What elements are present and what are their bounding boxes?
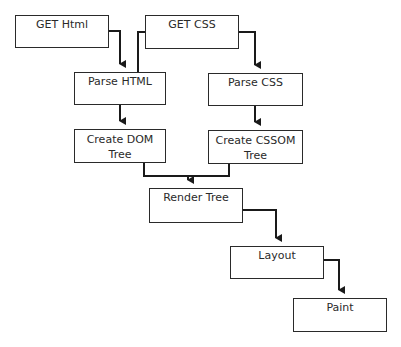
flowchart-canvas: GET Html GET CSS Parse HTML Parse CSS Cr…	[0, 0, 401, 347]
edge-create-dom-to-render-tree	[144, 162, 229, 176]
node-render-tree: Render Tree	[149, 188, 243, 223]
node-label: GET CSS	[168, 18, 215, 31]
node-label: GET Html	[36, 18, 88, 31]
connector-lines	[0, 0, 401, 347]
node-create-cssom-tree: Create CSSOM Tree	[208, 130, 303, 164]
node-create-dom-tree: Create DOM Tree	[74, 129, 166, 163]
edge-render-tree-to-layout	[242, 210, 276, 238]
node-layout: Layout	[230, 246, 324, 279]
node-parse-css: Parse CSS	[208, 73, 303, 106]
node-get-html: GET Html	[15, 15, 109, 48]
edge-get-html-to-parse-html	[108, 31, 120, 64]
node-label: Render Tree	[163, 191, 229, 204]
node-label: Parse CSS	[228, 76, 283, 89]
edge-get-css-to-parse-css	[238, 32, 255, 65]
node-label-line1: Create DOM	[75, 132, 165, 147]
node-label: Parse HTML	[88, 75, 152, 88]
edge-get-css-to-parse-html	[138, 32, 145, 72]
node-parse-html: Parse HTML	[74, 72, 166, 105]
node-label-line2: Tree	[209, 148, 302, 163]
node-label-line1: Create CSSOM	[209, 133, 302, 148]
node-label: Paint	[326, 301, 353, 314]
node-label: Layout	[258, 249, 295, 262]
node-paint: Paint	[293, 298, 387, 332]
edge-layout-to-paint	[323, 260, 339, 290]
node-get-css: GET CSS	[145, 15, 239, 49]
node-label-line2: Tree	[75, 147, 165, 162]
